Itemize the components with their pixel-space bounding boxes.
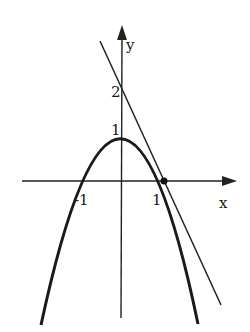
y-tick-two: 2 xyxy=(111,83,121,101)
x-axis-arrow-icon xyxy=(222,176,237,186)
tangent-point xyxy=(161,178,168,185)
tangent-line xyxy=(100,41,221,305)
x-tick-neg-one: -1 xyxy=(74,191,89,209)
y-axis xyxy=(121,36,122,318)
x-tick-one: 1 xyxy=(152,191,162,209)
x-axis-label: x xyxy=(219,194,228,212)
graph-figure: y x 2 1 -1 1 xyxy=(0,0,250,332)
y-tick-one: 1 xyxy=(111,121,121,139)
y-axis-label: y xyxy=(125,36,135,54)
parabola-curve xyxy=(41,139,198,325)
